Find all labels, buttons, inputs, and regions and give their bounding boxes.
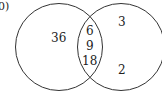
left-only-value: 36 (51, 32, 66, 44)
venn-diagram (0, 0, 162, 94)
intersection-value-1: 6 (86, 25, 94, 37)
intersection-value-3: 18 (82, 55, 97, 67)
right-only-value-2: 2 (118, 64, 126, 76)
intersection-value-2: 9 (86, 40, 94, 52)
right-only-value-1: 3 (118, 16, 126, 28)
figure-label: 0) (0, 1, 9, 12)
